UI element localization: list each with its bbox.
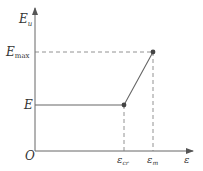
point-m: [151, 50, 156, 55]
point-cr: [122, 103, 127, 108]
modulus-strain-diagram: Eu Emax E O εcr εm ε: [0, 0, 203, 171]
y-axis-label: Eu: [18, 12, 33, 28]
emax-label: Emax: [5, 45, 30, 60]
x-axis-label: ε: [184, 154, 189, 165]
em-label: εm: [147, 154, 158, 166]
origin-label: O: [25, 149, 35, 163]
modulus-curve: [35, 52, 153, 105]
ecr-label: εcr: [117, 154, 130, 166]
e-label: E: [23, 98, 33, 112]
